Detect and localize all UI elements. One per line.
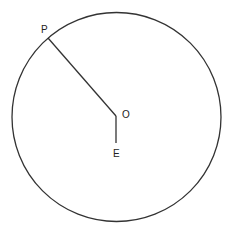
label-o: O [122, 109, 130, 120]
segment-po [48, 38, 116, 116]
label-p: P [41, 24, 48, 35]
label-e: E [113, 148, 120, 159]
geometry-diagram: P O E [0, 0, 232, 234]
